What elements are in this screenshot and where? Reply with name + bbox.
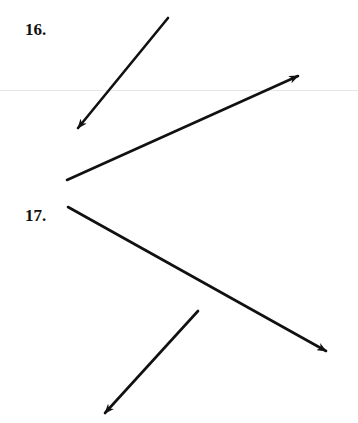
vector-arrow-16-1 — [78, 18, 168, 128]
vector-arrow-17-1 — [68, 207, 326, 351]
vector-arrow-16-2 — [67, 76, 298, 180]
vector-arrow-17-2 — [105, 311, 198, 413]
vector-figure — [0, 0, 358, 423]
worksheet-page: 16. 17. — [0, 0, 358, 423]
